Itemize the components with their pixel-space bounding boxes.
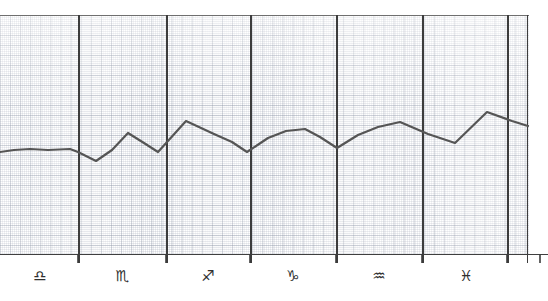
x-label-libra: ♎: [33, 268, 46, 284]
sign-divider-scorpio: [166, 15, 168, 263]
x-label-sagittarius: ♐: [201, 268, 214, 284]
chart-screenshot: ♎ ♏ ♐ ♑ ♒ ♓: [0, 0, 548, 301]
x-axis-baseline: [0, 254, 548, 255]
sign-divider-capricorn: [336, 15, 338, 263]
x-label-aquarius: ♒: [372, 268, 385, 284]
plot-right-border: [527, 15, 528, 263]
x-label-scorpio: ♏: [115, 268, 128, 284]
sign-divider-aquarius: [422, 15, 424, 263]
sign-divider-pisces: [507, 15, 509, 263]
x-label-capricorn: ♑: [286, 268, 299, 284]
x-label-pisces: ♓: [459, 268, 472, 284]
sign-divider-sagittarius: [250, 15, 252, 263]
sign-divider-libra: [78, 15, 80, 263]
